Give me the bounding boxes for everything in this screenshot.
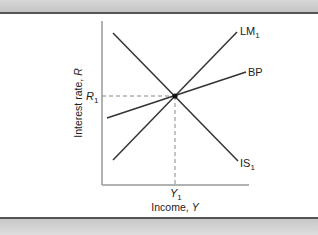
is-label: IS1 <box>240 157 255 172</box>
y1-label: Y1 <box>170 187 182 202</box>
x-axis-title: Income, Y <box>151 201 199 213</box>
r1-label: R1 <box>86 90 99 105</box>
equilibrium-point <box>172 93 177 98</box>
y-axis-title: Interest rate, R <box>72 68 84 138</box>
lm-label: LM1 <box>240 25 260 40</box>
bottom-frame-band <box>0 219 318 235</box>
bp-label: BP <box>248 66 263 78</box>
is-lm-bp-diagram: LM1 BP IS1 R1 Y1 Income, Y Interest rate… <box>0 0 318 235</box>
